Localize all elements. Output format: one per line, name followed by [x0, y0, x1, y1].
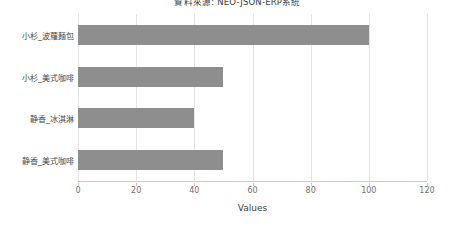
y-tick-label: 静香_冰淇淋 [2, 113, 74, 124]
y-axis-tick-labels: 小杉_波蘿麵包小杉_美式咖啡静香_冰淇淋静香_美式咖啡 [0, 14, 74, 181]
x-tick-label: 60 [247, 186, 257, 195]
bar-track [78, 139, 427, 181]
bar[interactable] [78, 150, 223, 170]
x-tick-label: 40 [189, 186, 199, 195]
plot-area [78, 14, 427, 181]
x-tick-label: 100 [361, 186, 376, 195]
x-tick-label: 80 [306, 186, 316, 195]
y-tick-label: 静香_美式咖啡 [2, 155, 74, 166]
x-axis-label: Values [78, 203, 427, 213]
bar[interactable] [78, 25, 369, 45]
x-axis-tick-labels: 020406080100120 [78, 183, 427, 199]
gridline-x-120 [427, 14, 428, 181]
y-tick-label: 小杉_美式咖啡 [2, 71, 74, 82]
chart-title: 資料來源: NEO-JSON-ERP系統 [0, 0, 475, 7]
x-tick-label: 0 [75, 186, 80, 195]
chart-figure: 資料來源: NEO-JSON-ERP系統 小杉_波蘿麵包小杉_美式咖啡静香_冰淇… [0, 0, 475, 236]
x-axis-spine [78, 181, 427, 182]
bar-track [78, 14, 427, 56]
bar-track [78, 56, 427, 98]
x-tick-label: 120 [419, 186, 434, 195]
x-tick-label: 20 [131, 186, 141, 195]
bar[interactable] [78, 108, 194, 128]
bar-track [78, 98, 427, 140]
bar[interactable] [78, 67, 223, 87]
y-tick-label: 小杉_波蘿麵包 [2, 29, 74, 40]
